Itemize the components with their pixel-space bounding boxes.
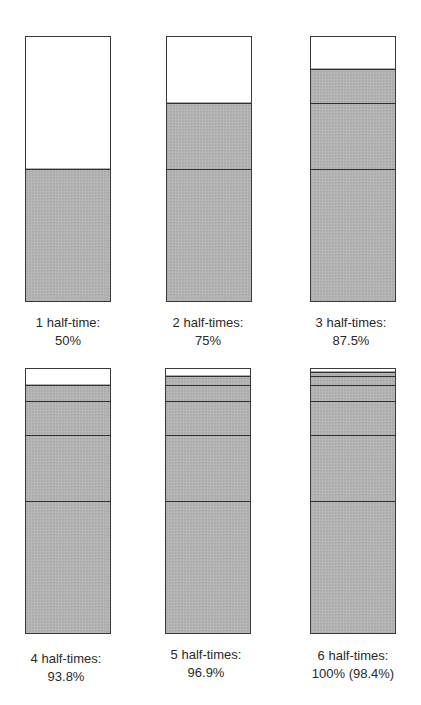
bar-1 (25, 36, 111, 302)
filled-portion (166, 375, 250, 633)
panel-6-title: 6 half-times: (288, 647, 418, 665)
panel-2-percent: 75% (143, 332, 273, 350)
segment-divider (26, 501, 110, 502)
segment-divider (311, 435, 395, 436)
panel-5-title: 5 half-times: (141, 646, 271, 664)
bar-4 (25, 368, 111, 634)
segment-divider (166, 385, 250, 386)
filled-portion (167, 102, 251, 302)
segment-divider (166, 376, 250, 377)
segment-divider (26, 401, 110, 402)
segment-divider (166, 435, 250, 436)
segment-divider (166, 501, 250, 502)
panel-1-label: 1 half-time: 50% (3, 314, 133, 350)
bar-6 (310, 368, 396, 634)
filled-portion (26, 168, 110, 301)
panel-5-percent: 96.9% (141, 664, 271, 682)
segment-divider (26, 385, 110, 386)
segment-divider (311, 372, 395, 373)
panel-3-percent: 87.5% (286, 332, 416, 350)
segment-divider (311, 103, 395, 104)
segment-divider (311, 385, 395, 386)
panel-6-percent: 100% (98.4%) (288, 665, 418, 683)
panel-2-title: 2 half-times: (143, 314, 273, 332)
panel-3-label: 3 half-times: 87.5% (286, 314, 416, 350)
segment-divider (167, 169, 251, 170)
panel-6-label: 6 half-times: 100% (98.4%) (288, 647, 418, 683)
panel-4-title: 4 half-times: (1, 650, 131, 668)
segment-divider (311, 376, 395, 377)
bar-5 (165, 368, 251, 634)
panel-3-title: 3 half-times: (286, 314, 416, 332)
segment-divider (311, 169, 395, 170)
panel-4-percent: 93.8% (1, 668, 131, 686)
filled-portion (26, 384, 110, 633)
filled-portion (311, 371, 395, 633)
panel-5-label: 5 half-times: 96.9% (141, 646, 271, 682)
panel-1-title: 1 half-time: (3, 314, 133, 332)
segment-divider (311, 401, 395, 402)
panel-2-label: 2 half-times: 75% (143, 314, 273, 350)
bar-2 (166, 36, 252, 302)
bar-3 (310, 36, 396, 302)
segment-divider (167, 103, 251, 104)
segment-divider (311, 69, 395, 70)
panel-4-label: 4 half-times: 93.8% (1, 650, 131, 686)
segment-divider (166, 401, 250, 402)
segment-divider (311, 501, 395, 502)
segment-divider (26, 169, 110, 170)
panel-1-percent: 50% (3, 332, 133, 350)
segment-divider (26, 435, 110, 436)
